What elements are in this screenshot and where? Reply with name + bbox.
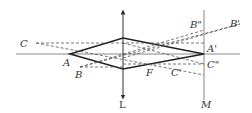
label-C-prime: C': [171, 67, 181, 78]
label-B-double-prime: B": [189, 19, 202, 30]
label-C-double-prime: C": [207, 59, 219, 70]
label-C: C: [20, 38, 28, 49]
label-B: B: [74, 69, 82, 80]
label-M: M: [200, 99, 212, 110]
optics-diagram: C A B F C' C" A' B" B' L M: [0, 0, 252, 113]
label-A: A: [62, 57, 70, 68]
label-L: L: [119, 99, 126, 110]
label-F: F: [145, 67, 154, 78]
label-A-prime: A': [206, 43, 217, 54]
label-B-prime: B': [229, 18, 240, 29]
